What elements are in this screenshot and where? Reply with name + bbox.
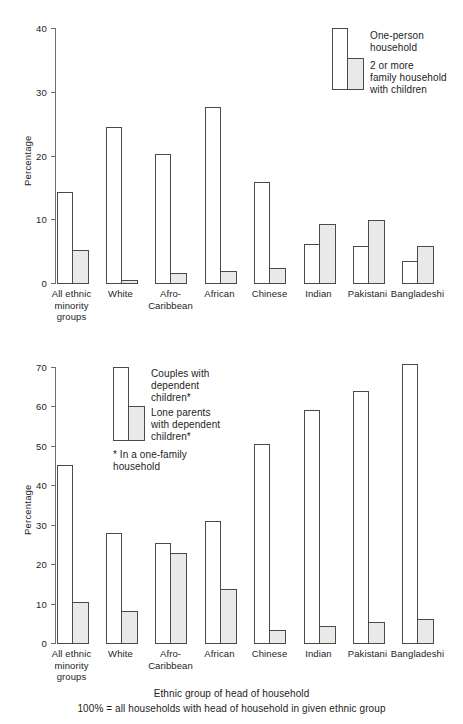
bar-open	[402, 261, 418, 284]
bar-open	[304, 244, 320, 284]
legend-swatch-two-or-more	[347, 58, 364, 90]
y-axis-tick	[51, 446, 55, 447]
bar-solid	[417, 619, 434, 644]
y-axis-tick-label: 60	[23, 401, 47, 412]
bar-open	[353, 391, 369, 644]
y-axis-line	[55, 367, 56, 644]
bar-solid	[368, 622, 385, 644]
bar-solid	[72, 250, 89, 284]
bar-open	[254, 182, 270, 284]
bar-open	[205, 521, 221, 644]
y-axis-line	[55, 28, 56, 284]
y-axis-tick-label: 70	[23, 362, 47, 373]
y-axis-tick	[51, 643, 55, 644]
y-axis-tick	[51, 604, 55, 605]
chart-top: Percentage010203040All ethnic minority g…	[0, 0, 463, 340]
bar-solid	[121, 280, 138, 284]
y-axis-tick	[51, 564, 55, 565]
x-axis-category-label: Bangladeshi	[389, 288, 446, 300]
legend-swatch-couples	[113, 367, 129, 441]
bar-solid	[220, 271, 237, 284]
bar-open	[402, 364, 418, 644]
x-axis-category-label: Bangladeshi	[389, 648, 446, 660]
y-axis-tick-label: 0	[23, 278, 47, 289]
y-axis-tick	[51, 525, 55, 526]
bar-solid	[121, 611, 138, 644]
x-axis-category-label: White	[92, 648, 149, 660]
x-axis-category-label: White	[92, 288, 149, 300]
y-axis-tick-label: 10	[23, 599, 47, 610]
legend-label-lone-parents: Lone parents with dependent children*	[151, 407, 266, 442]
bar-solid	[417, 246, 434, 284]
bar-solid	[269, 630, 286, 644]
y-axis-tick	[51, 28, 55, 29]
y-axis-tick-label: 10	[23, 214, 47, 225]
bar-open	[353, 246, 369, 284]
bar-solid	[72, 602, 89, 644]
y-axis-tick-label: 0	[23, 638, 47, 649]
bar-open	[205, 107, 221, 284]
bar-open	[254, 444, 270, 644]
x-axis-category-label: Pakistani	[339, 288, 396, 300]
y-axis-tick	[51, 92, 55, 93]
y-axis-tick-label: 40	[23, 480, 47, 491]
y-axis-tick	[51, 485, 55, 486]
y-axis-tick-label: 20	[23, 151, 47, 162]
legend-swatch-lone-parents	[128, 406, 145, 441]
bar-open	[155, 154, 171, 284]
bar-open	[106, 533, 122, 644]
legend-footnote: * In a one-family household	[113, 449, 233, 473]
y-axis-tick-label: 30	[23, 87, 47, 98]
y-axis-tick-label: 50	[23, 441, 47, 452]
bar-solid	[368, 220, 385, 284]
y-axis-tick	[51, 367, 55, 368]
bar-open	[304, 410, 320, 644]
bar-solid	[319, 224, 336, 284]
x-axis-category-label: African	[191, 648, 248, 660]
figure-root: Percentage010203040All ethnic minority g…	[0, 0, 463, 724]
bar-open	[106, 127, 122, 284]
y-axis-tick-label: 40	[23, 23, 47, 34]
legend-label-one-person: One-person household	[370, 30, 463, 54]
legend-swatch-one-person	[332, 28, 348, 90]
y-axis-tick-label: 30	[23, 520, 47, 531]
legend-label-couples: Couples with dependent children*	[151, 368, 261, 403]
x-axis-category-label: Pakistani	[339, 648, 396, 660]
bar-solid	[319, 626, 336, 644]
chart-bottom: Percentage010203040506070All ethnic mino…	[0, 340, 463, 680]
bar-solid	[170, 553, 187, 644]
bar-solid	[170, 273, 187, 284]
legend-label-two-or-more: 2 or more family household with children	[370, 60, 463, 95]
y-axis-tick	[51, 156, 55, 157]
bar-solid	[269, 268, 286, 284]
bar-solid	[220, 589, 237, 644]
y-axis-tick	[51, 219, 55, 220]
y-axis-tick	[51, 283, 55, 284]
bar-open	[57, 192, 73, 284]
bar-open	[155, 543, 171, 644]
y-axis-tick-label: 20	[23, 559, 47, 570]
y-axis-tick	[51, 406, 55, 407]
axis-title-caption: Ethnic group of head of household	[0, 688, 463, 699]
base-note-caption: 100% = all households with head of house…	[0, 703, 463, 714]
bar-open	[57, 465, 73, 644]
x-axis-category-label: African	[191, 288, 248, 300]
